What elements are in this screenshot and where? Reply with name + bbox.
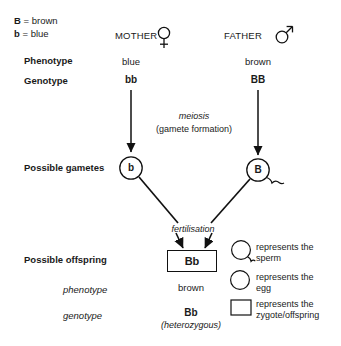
legend-egg-icon (231, 271, 250, 290)
line-egg-to-fertilisation (139, 177, 178, 223)
mother-label: MOTHER (115, 31, 157, 41)
legend-egg-line2: egg (256, 283, 314, 294)
genetics-cross-diagram: B = brown b = blue Phenotype Genotype Po… (0, 0, 341, 346)
legend-item-zygote: represents the zygote/offspring (256, 299, 319, 321)
legend-item-sperm: represents the sperm (256, 242, 314, 264)
mother-phenotype: blue (122, 57, 140, 67)
legend-item-egg: represents the egg (256, 272, 314, 294)
legend-sperm-line2: sperm (256, 253, 314, 264)
row-label-possible-gametes: Possible gametes (24, 163, 104, 173)
legend-zygote-line2: zygote/offspring (256, 310, 319, 321)
legend-egg-line1: represents the (256, 272, 314, 283)
allele-key-dominant-symbol: B (14, 15, 21, 26)
line-sperm-to-fertilisation (211, 179, 250, 223)
row-label-possible-offspring: Possible offspring (24, 255, 107, 265)
father-phenotype: brown (245, 57, 271, 67)
offspring-genotype-value: Bb (184, 308, 197, 318)
zygote-box: Bb (167, 250, 217, 272)
gamete-egg-allele: b (128, 163, 134, 173)
allele-key-recessive-meaning: = blue (22, 28, 48, 39)
legend-sperm-line1: represents the (256, 242, 314, 253)
arrow-fertilisation-left (176, 233, 183, 248)
row-label-offspring-phenotype: phenotype (63, 285, 107, 295)
offspring-zygosity: (heterozygous) (161, 321, 221, 330)
row-label-phenotype: Phenotype (24, 56, 73, 66)
legend-icons (0, 0, 341, 346)
arrow-fertilisation-right (205, 233, 212, 248)
father-genotype: BB (251, 75, 265, 85)
male-symbol-icon (0, 0, 341, 346)
allele-key-dominant-meaning: = brown (24, 15, 58, 26)
sperm-tail-icon (267, 178, 285, 184)
gamete-sperm-allele: B (254, 165, 261, 175)
legend-zygote-line1: represents the (256, 299, 319, 310)
offspring-phenotype-value: brown (178, 283, 204, 293)
legend-sperm-tail-icon (248, 257, 256, 262)
row-label-genotype: Genotype (24, 76, 68, 86)
legend-zygote-icon (231, 300, 251, 315)
allele-key-recessive: b = blue (14, 29, 49, 39)
father-label: FATHER (224, 31, 262, 41)
allele-key-dominant: B = brown (14, 16, 58, 26)
meiosis-sublabel: (gamete formation) (156, 125, 232, 134)
mother-genotype: bb (125, 75, 137, 85)
female-symbol-icon (0, 0, 341, 346)
row-label-offspring-genotype: genotype (63, 311, 102, 321)
meiosis-label: meiosis (179, 112, 210, 121)
zygote-genotype: Bb (185, 255, 200, 267)
allele-key-recessive-symbol: b (14, 28, 20, 39)
diagram-connectors (0, 0, 341, 346)
legend-sperm-icon (232, 241, 251, 260)
fertilisation-label: fertilisation (171, 225, 214, 234)
